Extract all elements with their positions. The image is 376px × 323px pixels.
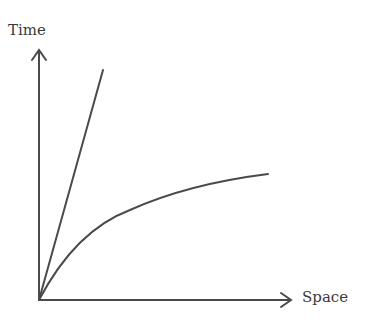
curve [39, 174, 268, 300]
straight-line [39, 70, 103, 300]
diagram [0, 0, 376, 323]
